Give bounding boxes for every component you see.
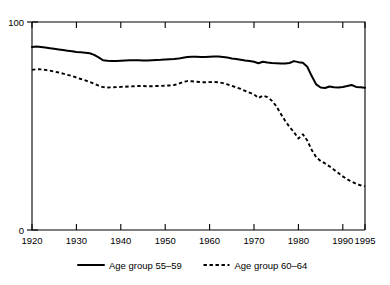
x-tick-label: 1995 [354,235,375,246]
x-tick-label: 1990 [332,235,353,246]
y-tick-label: 0 [19,225,24,236]
x-tick-label: 1930 [66,235,87,246]
x-tick-label: 1940 [110,235,131,246]
legend-label-2: Age group 60–64 [235,260,308,271]
y-axis-ticks: 0100 [8,17,38,236]
chart-figure: 192019301940195019601970198019901995 010… [0,0,390,285]
x-tick-label: 1960 [199,235,220,246]
data-series [32,47,365,187]
line-chart: 192019301940195019601970198019901995 010… [0,0,390,285]
x-tick-label: 1950 [155,235,176,246]
chart-legend: Age group 55–59Age group 60–64 [78,260,307,271]
legend-label-1: Age group 55–59 [109,260,182,271]
x-tick-label: 1980 [288,235,309,246]
x-tick-label: 1970 [243,235,264,246]
y-tick-label: 100 [8,17,24,28]
series-line-2 [32,69,365,186]
x-tick-label: 1920 [21,235,42,246]
x-axis-ticks: 192019301940195019601970198019901995 [21,22,375,246]
